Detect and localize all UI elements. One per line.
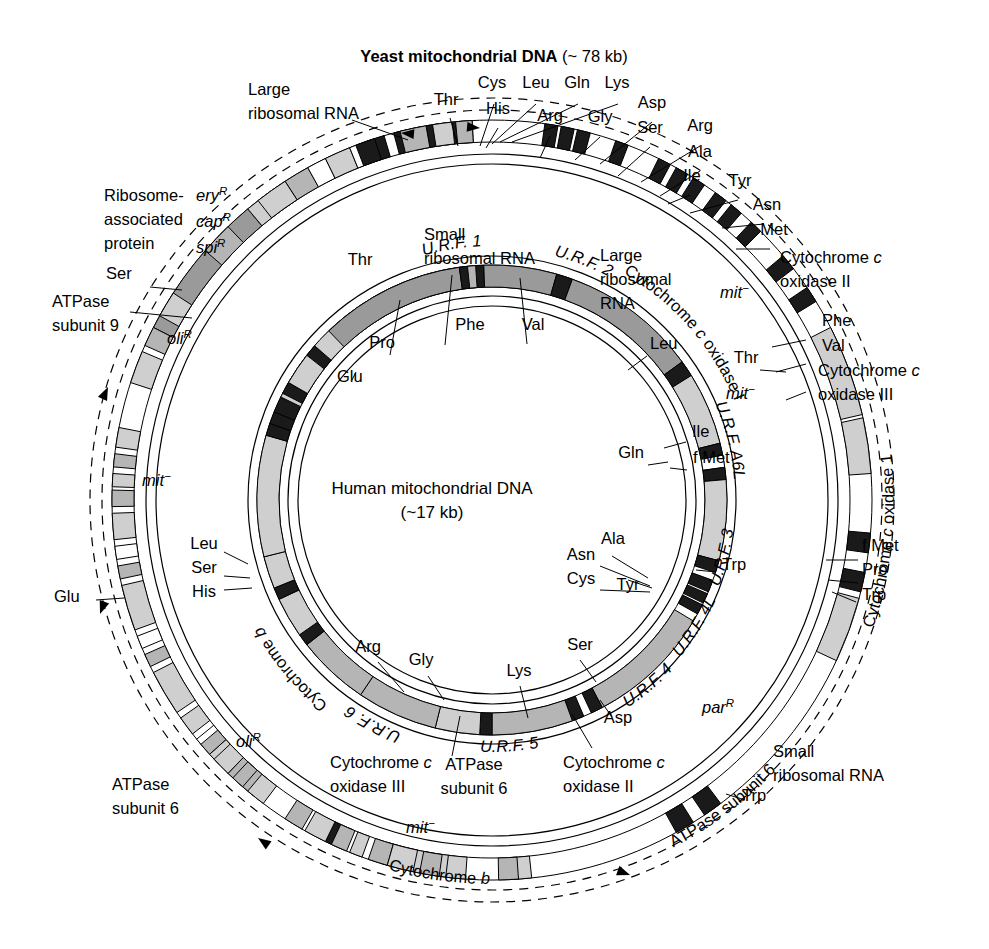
human-feature bbox=[435, 707, 481, 735]
human-feature bbox=[492, 700, 572, 735]
label-text: Thr bbox=[434, 90, 459, 108]
superscript: − bbox=[164, 470, 171, 482]
leader-line bbox=[224, 576, 250, 578]
label-asp: Asp bbox=[638, 93, 666, 111]
superscript: R bbox=[217, 237, 225, 249]
label-text: oliR bbox=[167, 328, 192, 347]
label-text: ATPase bbox=[445, 755, 502, 773]
label-part: oxidase bbox=[330, 777, 387, 795]
label-part: oxidase bbox=[563, 777, 620, 795]
superscript: R bbox=[223, 211, 231, 223]
label-text: oxidase II bbox=[563, 777, 634, 795]
label-part: Cytochrome bbox=[330, 753, 419, 771]
label-text: Ile bbox=[683, 166, 700, 184]
leader-line bbox=[224, 552, 248, 564]
label-atpase9: ATPasesubunit 9 bbox=[52, 292, 119, 334]
arrow-head bbox=[95, 600, 109, 616]
label-leu-h2: Leu bbox=[190, 534, 218, 552]
label-arg-1: Arg bbox=[537, 106, 563, 124]
label-text: His bbox=[486, 99, 510, 117]
label-part: Cytochrome bbox=[563, 753, 652, 771]
label-text: Asn bbox=[753, 195, 781, 213]
arrow-head bbox=[98, 385, 113, 401]
label-arg-h: Arg bbox=[355, 637, 381, 655]
leader-line bbox=[664, 442, 686, 448]
label-text: Leu bbox=[650, 334, 678, 352]
label-text: Large bbox=[248, 80, 290, 98]
label-text: RNA bbox=[600, 294, 635, 312]
superscript: R bbox=[184, 328, 192, 340]
label-text: subunit 9 bbox=[52, 316, 119, 334]
label-parr: parR bbox=[701, 697, 734, 716]
label-text: Ribosome- bbox=[104, 186, 184, 204]
leader-line bbox=[224, 588, 252, 590]
label-text: Gly bbox=[588, 107, 614, 125]
label-text: mit− bbox=[142, 470, 171, 489]
label-mit-1: mit− bbox=[142, 470, 171, 489]
label-asp-h: Asp bbox=[604, 708, 632, 726]
label-text: Cytochrome c bbox=[780, 248, 883, 266]
yeast-feature bbox=[842, 418, 872, 475]
human-feature bbox=[257, 435, 287, 557]
label-text: ATPase bbox=[52, 292, 109, 310]
superscript: R bbox=[726, 697, 734, 709]
labels: Largeribosomal RNAThrCysLeuGlnLysHisArgG… bbox=[52, 47, 921, 887]
label-thr-h: Thr bbox=[348, 250, 373, 268]
label-pro-h: Pro bbox=[369, 333, 395, 351]
human-feature bbox=[480, 713, 492, 735]
label-lys-h: Lys bbox=[506, 661, 531, 679]
label-text: Thr bbox=[734, 348, 759, 366]
label-text: associated bbox=[104, 210, 183, 228]
label-part: II bbox=[837, 272, 851, 290]
label-cox2-h: Cytochrome coxidase II bbox=[563, 753, 666, 795]
label-text: ATPase bbox=[112, 775, 169, 793]
label-text: Gly bbox=[409, 650, 435, 668]
label-part: III bbox=[875, 385, 893, 403]
label-text: Ala bbox=[601, 529, 626, 547]
label-small-rrna-y: Smallribosomal RNA bbox=[773, 742, 884, 784]
yeast-feature bbox=[433, 122, 455, 146]
label-text: His bbox=[192, 582, 216, 600]
label-text: oxidase II bbox=[780, 272, 851, 290]
label-part: oxidase bbox=[818, 385, 875, 403]
ring-outline bbox=[298, 306, 686, 694]
center-subtitle: (~17 kb) bbox=[401, 503, 464, 522]
label-phe-h: Phe bbox=[455, 315, 484, 333]
label-leu: Leu bbox=[522, 73, 550, 91]
label-ser-1: Ser bbox=[637, 118, 663, 136]
figure-title: Yeast mitochondrial DNA (~ 78 kb) bbox=[360, 47, 627, 65]
label-text: Small bbox=[773, 742, 814, 760]
label-text: eryR bbox=[196, 185, 227, 204]
label-olir-1: oliR bbox=[167, 328, 192, 347]
label-part: II bbox=[620, 777, 634, 795]
label-met: Met bbox=[760, 220, 788, 238]
label-ile: Ile bbox=[683, 166, 700, 184]
label-text: oxidase III bbox=[330, 777, 405, 795]
label-ser-y: Ser bbox=[106, 264, 132, 282]
label-text: Gln bbox=[564, 73, 590, 91]
label-mit-4: mit− bbox=[406, 817, 435, 836]
label-text: capR bbox=[196, 211, 231, 230]
label-text: Arg bbox=[537, 106, 563, 124]
center-title: Human mitochondrial DNA bbox=[331, 479, 533, 498]
label-atpase6-h: ATPasesubunit 6 bbox=[441, 755, 508, 797]
label-text: Lys bbox=[506, 661, 531, 679]
label-text: subunit 6 bbox=[441, 779, 508, 797]
label-leu-h: Leu bbox=[650, 334, 678, 352]
label-text: Asp bbox=[638, 93, 666, 111]
arrow-cytb-bottom bbox=[95, 600, 109, 616]
label-cys-h: Cys bbox=[567, 569, 595, 587]
label-part: oxidase bbox=[780, 272, 837, 290]
label-tyr-h: Tyr bbox=[617, 575, 640, 593]
label-text: subunit 6 bbox=[112, 799, 179, 817]
leader-line bbox=[628, 356, 647, 370]
label-fmet-h: f Met bbox=[693, 448, 730, 466]
label-arg-2: Arg bbox=[687, 116, 713, 134]
label-text: Gln bbox=[618, 443, 644, 461]
label-text: Asp bbox=[604, 708, 632, 726]
label-thr-y2: Thr bbox=[734, 348, 759, 366]
label-part: c bbox=[652, 753, 666, 771]
label-ribosome-assoc: Ribosome-associatedprotein bbox=[104, 186, 184, 252]
label-ser-h2: Ser bbox=[191, 558, 217, 576]
label-text: Cys bbox=[567, 569, 595, 587]
